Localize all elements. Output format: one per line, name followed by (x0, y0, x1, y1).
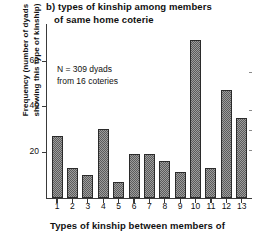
x-tick-mark-11 (210, 199, 211, 203)
x-tick-label-13: 13 (234, 201, 249, 212)
x-tick-label-4: 4 (96, 201, 111, 212)
plot-area: 20 40 60 (46, 24, 252, 199)
bar-2[interactable] (67, 168, 78, 198)
x-tick-mark-2 (72, 199, 73, 203)
annotation-line-1: N = 309 dyads (57, 63, 118, 75)
edge-artifact-mark (249, 110, 252, 111)
x-tick-mark-8 (164, 199, 165, 203)
y-tick-20: 20 (42, 152, 46, 153)
bar-8[interactable] (159, 161, 170, 198)
x-tick-mark-9 (180, 199, 181, 203)
bar-slot (65, 25, 80, 198)
annotation-line-2: from 16 coteries (57, 75, 118, 87)
x-tick-label-2: 2 (65, 201, 80, 212)
bar-10[interactable] (190, 40, 201, 198)
bar-slot (126, 25, 141, 198)
chart-title-line-1: b) types of kinship among members (46, 1, 212, 12)
bar-6[interactable] (129, 154, 140, 197)
x-tick-label-6: 6 (126, 201, 141, 212)
chart-title: b) types of kinship among members of sam… (46, 1, 254, 26)
y-tick-label-60: 60 (30, 55, 39, 66)
x-tick-label-8: 8 (157, 201, 172, 212)
bar-4[interactable] (98, 129, 109, 198)
bar-7[interactable] (144, 154, 155, 197)
x-tick-label-11: 11 (203, 201, 218, 212)
x-tick-mark-5 (118, 199, 119, 203)
x-tick-label-1: 1 (49, 201, 64, 212)
bar-slot (49, 25, 64, 198)
edge-artifact-mark (249, 150, 252, 151)
x-axis-label: Types of kinship between members of (50, 220, 254, 231)
y-tick-label-40: 40 (30, 100, 39, 111)
bar-slot (157, 25, 172, 198)
y-axis-label: Frequency (number of dyads showing this … (20, 0, 46, 140)
x-tick-mark-13 (241, 199, 242, 203)
bar-13[interactable] (236, 118, 247, 198)
x-tick-mark-3 (87, 199, 88, 203)
y-tick-60: 60 (42, 61, 46, 62)
bar-slot (234, 25, 249, 198)
bar-11[interactable] (205, 168, 216, 198)
x-tick-label-9: 9 (173, 201, 188, 212)
bar-slot (142, 25, 157, 198)
x-tick-mark-6 (133, 199, 134, 203)
bar-3[interactable] (82, 175, 93, 198)
y-axis-label-line-2: showing this type of kinship) (31, 0, 42, 140)
y-tick-40: 40 (42, 106, 46, 107)
x-tick-label-10: 10 (188, 201, 203, 212)
bar-9[interactable] (175, 172, 186, 197)
bar-slot (188, 25, 203, 198)
x-tick-mark-10 (195, 199, 196, 203)
bar-slot (173, 25, 188, 198)
x-tick-label-12: 12 (219, 201, 234, 212)
x-tick-label-5: 5 (111, 201, 126, 212)
x-tick-labels: 12345678910111213 (47, 201, 251, 212)
bar-12[interactable] (221, 90, 232, 197)
y-axis-label-line-1: Frequency (number of dyads (20, 0, 31, 140)
y-tick-label-20: 20 (30, 146, 39, 157)
x-tick-label-3: 3 (80, 201, 95, 212)
bar-5[interactable] (113, 182, 124, 198)
x-tick-mark-4 (103, 199, 104, 203)
bar-slot (111, 25, 126, 198)
edge-artifact-mark (249, 130, 252, 131)
bar-slot (203, 25, 218, 198)
x-tick-mark-7 (149, 199, 150, 203)
bar-slot (96, 25, 111, 198)
x-tick-mark-1 (56, 199, 57, 203)
x-tick-mark-12 (226, 199, 227, 203)
edge-artifact-mark (249, 72, 252, 73)
x-tick-label-7: 7 (142, 201, 157, 212)
bar-slot (219, 25, 234, 198)
bar-slot (80, 25, 95, 198)
bar-series (47, 25, 251, 198)
sample-size-annotation: N = 309 dyads from 16 coteries (57, 63, 118, 87)
bar-1[interactable] (52, 136, 63, 198)
